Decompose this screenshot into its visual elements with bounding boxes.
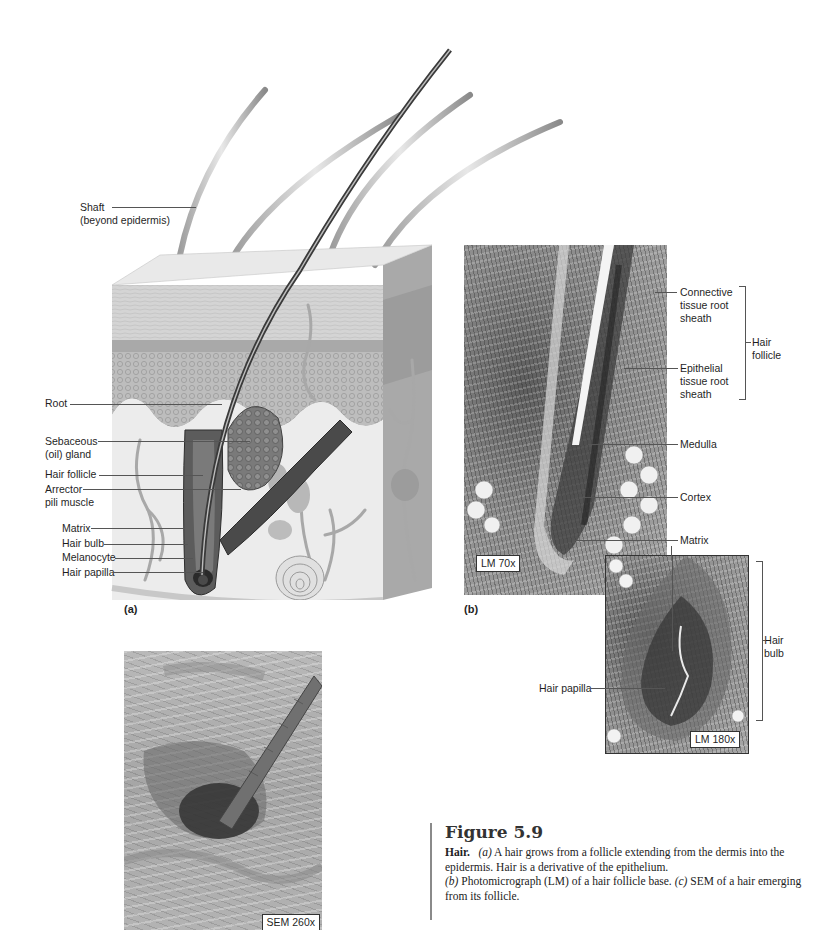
leader-matrix-vertical [671,546,672,556]
label-matrix: Matrix [62,522,91,535]
label-hair-papilla-b: Hair papilla [539,682,592,695]
label-hair-follicle: Hair follicle [45,468,96,481]
label-epithelial-tissue-root-sheath: Epithelial tissue root sheath [680,362,728,401]
leader-cortex [582,497,678,498]
bracket-hair-bulb [756,561,763,721]
caption-a-marker: (a) [478,846,491,858]
leader-root [70,404,222,405]
leader-matrix [91,528,185,529]
label-melanocyte: Melanocyte [62,551,116,564]
photomicrograph-follicle: LM 70x [464,245,667,595]
leader-connective-tissue [655,292,677,293]
label-hair-bulb: Hair bulb [62,537,104,550]
leader-hair-bulb [104,544,188,545]
leader-melanocyte [115,558,193,559]
figure-number: Figure 5.9 [445,822,543,842]
leader-medulla [588,444,678,445]
label-cortex: Cortex [680,491,711,504]
magnification-label-lm180: LM 180x [690,731,740,748]
hair-bulb-micrograph-drawing [606,556,748,753]
leader-hair-follicle [99,475,203,476]
label-shaft: Shaft (beyond epidermis) [80,201,170,227]
leader-hair-papilla [113,572,203,573]
caption-b-marker: (b) [445,875,458,887]
label-medulla: Medulla [680,438,717,451]
magnification-label-sem260: SEM 260x [262,914,320,930]
caption-c-marker: (c) [675,875,688,887]
label-hair-papilla: Hair papilla [62,566,115,579]
figure-caption: Hair. (a) A hair grows from a follicle e… [445,845,805,903]
caption-lead: Hair. [445,846,470,858]
bracket-hair-follicle [739,286,746,400]
leader-epithelial-tissue [624,368,678,369]
panel-b-letter: (b) [464,603,478,615]
magnification-label-lm70: LM 70x [476,555,520,572]
label-connective-tissue-root-sheath: Connective tissue root sheath [680,286,733,325]
leader-hair-papilla-b [591,688,665,689]
caption-a-text: A hair grows from a follicle extending f… [445,846,784,873]
leader-matrix-to-inset [672,555,673,651]
leader-arrector-pili [83,489,241,490]
label-sebaceous-gland: Sebaceous (oil) gland [45,435,98,461]
panel-a-letter: (a) [124,603,137,615]
photomicrograph-hair-bulb-inset: LM 180x [605,555,749,754]
leader-hair-follicle-bracket [746,342,751,343]
label-matrix-b: Matrix [680,534,709,547]
sem-hair-emerging: SEM 260x [124,651,322,930]
follicle-micrograph-drawing [464,245,667,595]
label-hair-follicle-b: Hair follicle [752,336,781,362]
label-root: Root [45,397,67,410]
leader-sebaceous-gland [98,441,250,442]
sem-drawing [124,651,322,930]
caption-rule [430,823,432,920]
leader-shaft [112,207,196,208]
leader-matrix-b [572,540,678,541]
label-arrector-pili: Arrector pili muscle [45,483,94,509]
caption-b-text: Photomicrograph (LM) of a hair follicle … [458,875,674,887]
label-hair-bulb-b: Hair bulb [764,634,784,660]
